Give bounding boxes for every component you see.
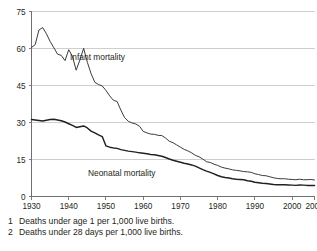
chart-plot-area: 0153045607519301940195019601970198019902… xyxy=(0,0,317,251)
y-axis-tick-label: 75 xyxy=(16,8,26,17)
x-axis-tick-label: 1950 xyxy=(97,202,116,211)
x-axis-tick-label: 2000 xyxy=(283,202,302,211)
x-axis-tick-label: 1980 xyxy=(209,202,228,211)
x-axis-tick-label: 1930 xyxy=(22,202,41,211)
series-label-infant-mortality: Infant mortality xyxy=(70,52,126,62)
x-axis-tick-label: 1990 xyxy=(246,202,265,211)
y-axis-tick-label: 45 xyxy=(16,82,26,91)
x-axis-tick-label: 2006 xyxy=(305,202,317,211)
x-axis-tick-label: 1970 xyxy=(171,202,190,211)
series-label-neonatal-mortality: Neonatal mortality xyxy=(88,168,156,178)
infant-neonatal-mortality-chart: 0153045607519301940195019601970198019902… xyxy=(0,0,317,251)
series-line-infant-mortality xyxy=(32,28,315,180)
footnote-text: Deaths under age 1 per 1,000 live births… xyxy=(19,216,317,227)
y-axis-tick-label: 60 xyxy=(16,45,26,54)
footnote-marker: 2 xyxy=(8,227,19,238)
footnote-marker: 1 xyxy=(8,216,19,227)
series-line-neonatal-mortality xyxy=(32,119,315,185)
y-axis-tick-label: 15 xyxy=(16,156,26,165)
footnote-row: 1 Deaths under age 1 per 1,000 live birt… xyxy=(8,216,317,227)
x-axis-tick-label: 1940 xyxy=(60,202,79,211)
x-axis-tick-label: 1960 xyxy=(134,202,153,211)
footnote-list: 1 Deaths under age 1 per 1,000 live birt… xyxy=(8,216,317,238)
footnote-text: Deaths under 28 days per 1,000 live birt… xyxy=(19,227,317,238)
y-axis-tick-label: 30 xyxy=(16,119,26,128)
footnote-row: 2 Deaths under 28 days per 1,000 live bi… xyxy=(8,227,317,238)
y-axis-tick-label: 0 xyxy=(21,193,26,202)
